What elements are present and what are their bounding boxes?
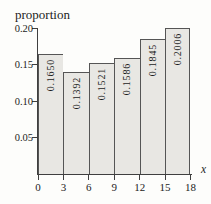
bar-value-label: 0.1521 xyxy=(97,68,107,100)
x-tick-label: 15 xyxy=(154,181,176,193)
x-tick-label: 9 xyxy=(103,181,125,193)
bar: 0.1521 xyxy=(89,63,114,174)
bar-chart: proportion x 0.16500.13920.15210.15860.1… xyxy=(0,0,211,204)
y-tick-label: 0.15 xyxy=(0,58,33,71)
y-tick-label: 0.05 xyxy=(0,131,33,144)
bar: 0.1586 xyxy=(114,58,139,174)
x-tick-label: 12 xyxy=(129,181,151,193)
bar: 0.2006 xyxy=(165,28,190,174)
bar: 0.1845 xyxy=(140,39,165,174)
bar: 0.1650 xyxy=(38,54,63,174)
x-tick-label: 3 xyxy=(52,181,74,193)
x-tick xyxy=(38,175,39,180)
x-tick xyxy=(190,175,191,180)
bar: 0.1392 xyxy=(63,72,88,174)
y-axis-line xyxy=(37,28,38,174)
x-tick xyxy=(139,175,140,180)
x-tick xyxy=(114,175,115,180)
x-tick-label: 0 xyxy=(27,181,49,193)
x-axis-title: x xyxy=(201,163,206,175)
x-tick xyxy=(165,175,166,180)
x-tick-label: 6 xyxy=(78,181,100,193)
x-tick-label: 18 xyxy=(180,181,202,193)
y-tick-label: 0.10 xyxy=(0,95,33,108)
bar-value-label: 0.1650 xyxy=(46,59,56,91)
bar-value-label: 0.1392 xyxy=(72,77,82,109)
bar-value-label: 0.1586 xyxy=(122,63,132,95)
bar-value-label: 0.1845 xyxy=(148,44,158,76)
y-tick-label: 0.20 xyxy=(0,22,33,35)
x-tick xyxy=(88,175,89,180)
bar-value-label: 0.2006 xyxy=(173,33,183,65)
y-axis-title: proportion xyxy=(15,8,70,22)
x-tick xyxy=(63,175,64,180)
